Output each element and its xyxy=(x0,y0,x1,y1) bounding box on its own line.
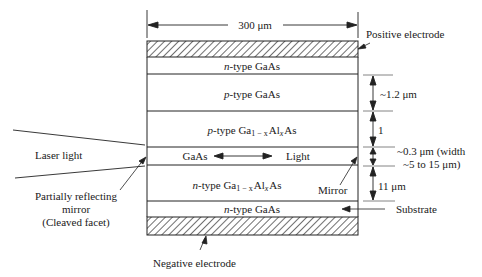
layer-active-gaas: GaAs xyxy=(182,150,207,162)
negative-electrode-layer xyxy=(147,217,358,235)
partial-mirror-label-2: mirror xyxy=(62,203,90,215)
negative-electrode-label: Negative electrode xyxy=(153,257,236,269)
light-label: Light xyxy=(286,150,310,162)
layer-p-gaalas: p-type Ga1 − x Alx As xyxy=(208,124,297,136)
thickness-p-gaas: ~1.2 μm xyxy=(380,88,417,100)
thickness-n-gaalas: 11 μm xyxy=(378,180,406,192)
light-double-arrow xyxy=(214,153,272,159)
positive-electrode-layer xyxy=(147,41,358,57)
layer-n-gaas-substrate: n-type GaAs xyxy=(224,203,280,215)
laser-light-label: Laser light xyxy=(35,149,82,161)
partial-mirror-label-1: Partially reflecting xyxy=(35,190,117,202)
layer-p-gaas: p-type GaAs xyxy=(224,88,280,100)
laser-diagram-graphics xyxy=(0,0,482,277)
substrate-label: Substrate xyxy=(396,203,437,215)
partial-mirror-label-3: (Cleaved facet) xyxy=(42,216,109,228)
width-dimension-label: 300 μm xyxy=(238,19,272,31)
thickness-p-gaalas: 1 xyxy=(378,124,384,136)
positive-electrode-label: Positive electrode xyxy=(366,28,445,40)
thickness-active-1: ~0.3 μm (width xyxy=(397,145,465,157)
layer-n-gaas-top: n-type GaAs xyxy=(224,60,280,72)
mirror-label: Mirror xyxy=(318,184,347,196)
layer-n-gaalas: n-type Ga1 − x Alx As xyxy=(193,179,282,191)
thickness-active-2: ~5 to 15 μm) xyxy=(403,158,460,170)
